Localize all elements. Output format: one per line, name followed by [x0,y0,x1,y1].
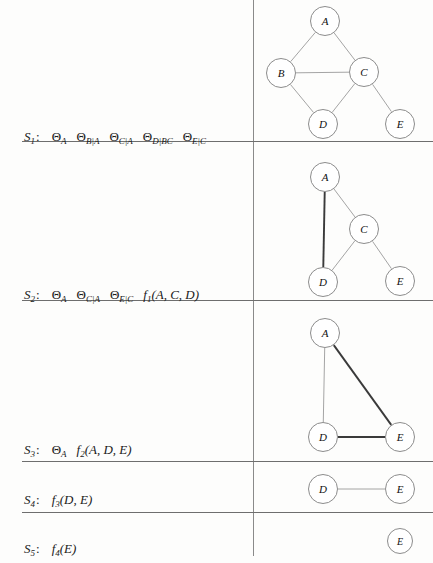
parameter-term-s1-2: ΘC|A [109,129,132,144]
parameter-term-s1-1: ΘB|A [77,129,100,144]
graph-node-e: E [385,422,415,452]
graph-edge-a-e [334,345,391,425]
factor-set-name: S5: [24,541,42,556]
row-separator-s3 [22,461,433,462]
parameter-term-s2-2: ΘE|C [110,287,133,302]
graph-edge-a-d [323,192,324,267]
factor-set-name: S4: [24,492,42,507]
graph-edge-a-c [334,33,355,60]
parameter-term-s2-1: ΘC|A [77,287,100,302]
factor-set-label-s1: S1:ΘAΘB|AΘC|AΘD|BCΘE|C [24,130,206,146]
graph-node-d: D [308,267,338,297]
graph-edge-a-c [334,189,355,217]
factor-set-label-s2: S2:ΘAΘC|AΘE|Cf1(A, C, D) [24,288,199,304]
graph-node-e: E [387,528,413,554]
parameter-term-s2-0: ΘA [52,287,67,302]
factor-set-label-s3: S3:ΘAf2(A, D, E) [24,443,132,459]
graph-node-c: C [349,214,379,244]
graph-edge-b-d [291,85,314,113]
factor-set-label-s4: S4:f3(D, E) [24,493,92,509]
factor-set-name: S2: [24,287,42,302]
variable-elimination-figure: S1:ΘAΘB|AΘC|AΘD|BCΘE|CABCDES2:ΘAΘC|AΘE|C… [0,0,433,563]
graph-edge-a-b [291,32,316,61]
parameter-term-s1-3: ΘD|BC [143,129,173,144]
graph-node-d: D [308,422,338,452]
factor-term-s3-1: f2(A, D, E) [77,442,132,457]
graph-node-b: B [266,58,296,88]
graph-node-e: E [385,266,415,296]
graph-node-d: D [308,474,338,504]
factor-set-name: S1: [24,129,42,144]
factor-set-label-s5: S5:f4(E) [24,542,76,558]
factor-set-name: S3: [24,442,42,457]
graph-edge-b-c [296,72,349,73]
graph-node-a: A [310,318,340,348]
graph-node-a: A [310,6,340,36]
factor-term-s2-3: f1(A, C, D) [143,287,199,302]
graph-node-c: C [349,57,379,87]
graph-node-e: E [385,109,415,139]
graph-node-d: D [308,109,338,139]
graph-edge-a-d [323,348,324,422]
graph-edge-c-e [373,84,392,111]
parameter-term-s3-0: ΘA [52,442,67,457]
parameter-term-s1-0: ΘA [52,129,67,144]
graph-node-e: E [385,474,415,504]
graph-edge-c-d [332,241,355,270]
graph-edge-c-d [332,84,354,112]
graph-node-a: A [310,162,340,192]
factor-term-s5-0: f4(E) [52,541,77,556]
factor-term-s4-0: f3(D, E) [52,492,93,507]
graph-edge-c-e [373,241,392,268]
row-separator-s4 [22,512,433,513]
parameter-term-s1-4: ΘE|C [183,129,206,144]
